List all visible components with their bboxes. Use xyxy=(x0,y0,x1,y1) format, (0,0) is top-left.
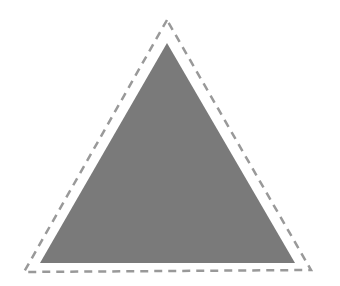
filled-triangle xyxy=(40,43,295,263)
triangle-diagram xyxy=(0,0,340,286)
